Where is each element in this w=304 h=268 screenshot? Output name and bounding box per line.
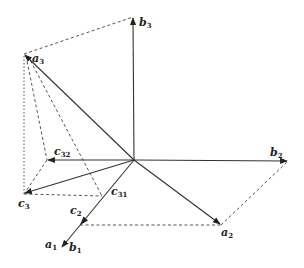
label-b2: b2 (270, 146, 283, 160)
label-c32: c32 (54, 145, 71, 159)
vector-a3 (25, 55, 134, 160)
dashed-lines (24, 17, 288, 225)
vector-b3 (133, 18, 134, 160)
label-a3: a3 (32, 52, 44, 66)
diagram-svg: a3 b3 b2 a2 c32 c3 c31 c2 a1 b1 (0, 0, 304, 268)
vector-a2 (134, 160, 220, 224)
label-c31: c31 (111, 185, 128, 199)
dash-a2-b2 (221, 161, 288, 225)
dash-c3-c31 (24, 194, 102, 196)
label-c3: c3 (18, 197, 30, 211)
dash-a3-b3 (24, 17, 133, 54)
vector-b2 (134, 160, 287, 161)
vectors (25, 18, 287, 247)
label-b3: b3 (139, 16, 152, 30)
dash-c32-c3 (24, 160, 47, 194)
label-a2: a2 (221, 226, 233, 240)
label-a1: a1 (45, 238, 57, 252)
vector-diagram: a3 b3 b2 a2 c32 c3 c31 c2 a1 b1 (0, 0, 304, 268)
label-b1: b1 (69, 241, 82, 255)
label-c2: c2 (70, 204, 82, 218)
dash-a3-c31 (28, 56, 102, 196)
